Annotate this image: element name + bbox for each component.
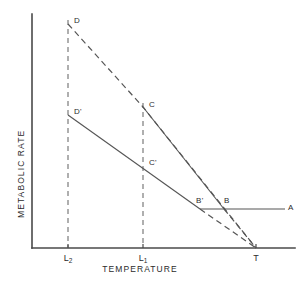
curve-dprime-to-bprime-solid — [68, 115, 200, 209]
curve-bprime-to-t-dashed — [200, 209, 256, 248]
point-label-b-prime: B' — [196, 197, 203, 205]
x-tick-label-l2: L2 — [64, 254, 73, 263]
point-label-a: A — [288, 204, 294, 212]
point-label-c-prime: C' — [149, 159, 157, 167]
point-label-b: B — [224, 197, 230, 205]
x-tick-label-l2-sub: 2 — [69, 257, 73, 264]
point-label-d: D — [74, 17, 80, 25]
curve-d-to-t-dashed — [68, 24, 256, 248]
x-tick-label-t-base: T — [253, 253, 259, 263]
metabolic-rate-temperature-figure: D D' C C' B' B A L2 L1 T TEMPERATURE MET… — [0, 0, 306, 289]
point-label-d-prime: D' — [74, 108, 82, 116]
x-tick-label-l1: L1 — [139, 254, 148, 263]
plot-canvas — [0, 0, 306, 289]
y-axis-title: METABOLIC RATE — [16, 98, 26, 218]
x-axis-title: TEMPERATURE — [102, 264, 178, 274]
x-tick-label-l1-sub: 1 — [144, 257, 148, 264]
x-tick-label-t: T — [253, 254, 259, 263]
point-label-c: C — [149, 101, 155, 109]
